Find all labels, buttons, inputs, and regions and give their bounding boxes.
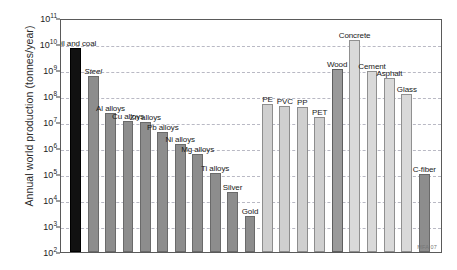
bar-pe[interactable]: [262, 104, 273, 252]
y-tick-label-6: 106: [43, 144, 57, 154]
bar-label-pp: PP: [297, 98, 307, 107]
bar-label-c-fiber: C-fiber: [413, 165, 436, 174]
bar-ni-alloys[interactable]: [175, 144, 186, 252]
chart-root: Annual world production (tonnes/year) 10…: [0, 0, 457, 270]
bar-zn-alloys[interactable]: [140, 122, 151, 252]
bar-label-concrete: Concrete: [339, 31, 371, 40]
y-tick-label-2: 102: [43, 248, 57, 258]
y-tick-label-7: 107: [43, 118, 57, 128]
bar-pet[interactable]: [314, 117, 325, 252]
y-tick-label-10: 1010: [40, 40, 57, 50]
y-tick-label-8: 108: [43, 92, 57, 102]
bar-cement[interactable]: [367, 71, 378, 252]
bar-label-pet: PET: [312, 108, 327, 117]
bar-label-ni-alloys: Ni alloys: [166, 135, 195, 144]
bar-label-ti-alloys: Ti alloys: [201, 164, 229, 173]
bar-c-fiber[interactable]: [419, 174, 430, 252]
bar-gold[interactable]: [245, 216, 256, 252]
bar-label-silver: Silver: [223, 183, 242, 192]
y-tick-label-9: 109: [43, 66, 57, 76]
bar-al-alloys[interactable]: [105, 113, 116, 252]
y-tick-label-4: 104: [43, 196, 57, 206]
y-tick-label-3: 103: [43, 222, 57, 232]
bar-concrete[interactable]: [349, 40, 360, 252]
bar-wood[interactable]: [332, 69, 343, 252]
bar-label-wood: Wood: [327, 60, 347, 69]
bar-label-oil-and-coal: Oil and coal: [60, 39, 96, 48]
bar-label-mg-alloys: Mg alloys: [181, 145, 214, 154]
y-tick-label-11: 1011: [40, 14, 57, 24]
bar-label-pb-alloys: Pb alloys: [147, 123, 179, 132]
bar-oil-and-coal[interactable]: [70, 48, 81, 252]
plot-area: Oil and coalSteelAl alloysCu alloysZn al…: [60, 19, 442, 253]
bar-silver[interactable]: [227, 192, 238, 252]
bar-label-pe: PE: [262, 95, 272, 104]
bar-cu-alloys[interactable]: [123, 121, 134, 252]
bar-label-zn-alloys: Zn alloys: [130, 113, 161, 122]
y-axis-tick-labels: 10111010109108107106105104103102: [18, 0, 60, 270]
bar-label-gold: Gold: [242, 207, 259, 216]
bar-label-asphalt: Asphalt: [376, 69, 402, 78]
bar-pvc[interactable]: [279, 106, 290, 252]
bar-glass[interactable]: [401, 94, 412, 252]
bar-label-glass: Glass: [397, 85, 417, 94]
bar-asphalt[interactable]: [384, 78, 395, 252]
bar-pp[interactable]: [297, 107, 308, 252]
watermark-label: MFA 07: [417, 244, 437, 250]
y-tick-label-5: 105: [43, 170, 57, 180]
bar-pb-alloys[interactable]: [157, 132, 168, 252]
bar-steel[interactable]: [88, 76, 99, 252]
gridline: [61, 46, 441, 47]
bar-ti-alloys[interactable]: [210, 173, 221, 252]
bar-label-pvc: PVC: [277, 97, 293, 106]
bar-label-steel: Steel: [84, 67, 102, 76]
